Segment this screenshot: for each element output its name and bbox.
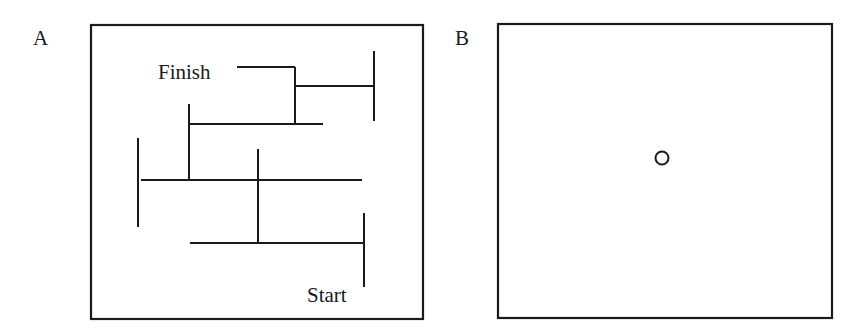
circle-panel bbox=[498, 24, 832, 318]
circle-target-icon bbox=[656, 152, 669, 165]
maze-panel: FinishStart bbox=[91, 25, 423, 319]
square-frame bbox=[498, 24, 832, 318]
start-label: Start bbox=[307, 283, 347, 307]
finish-label: Finish bbox=[158, 60, 211, 84]
figure-canvas: FinishStart bbox=[0, 0, 866, 328]
